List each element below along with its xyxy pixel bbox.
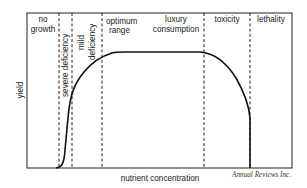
- zone-label-mild: mild: [77, 35, 86, 50]
- zone-label-deficiency: deficiency: [88, 23, 97, 60]
- yield-curve: [56, 52, 250, 168]
- yield-response-diagram: no growth severe deficiency mild deficie…: [0, 0, 307, 188]
- zone-label-range: range: [109, 26, 130, 35]
- zone-label-luxury: luxury: [165, 15, 188, 24]
- zone-label-consumption: consumption: [153, 25, 200, 34]
- credit-text: Annual Reviews Inc.: [231, 171, 291, 179]
- zone-label-no-growth-1: no: [38, 15, 48, 24]
- zone-label-lethality: lethality: [257, 15, 286, 24]
- zone-label-severe-deficiency: severe deficiency: [61, 33, 70, 97]
- x-axis-label: nutrient concentration: [121, 174, 200, 183]
- zone-label-optimum: optimum: [106, 17, 138, 26]
- y-axis-label: yield: [16, 81, 25, 98]
- zone-label-no-growth-2: growth: [31, 25, 56, 34]
- zone-label-toxicity: toxicity: [214, 15, 240, 24]
